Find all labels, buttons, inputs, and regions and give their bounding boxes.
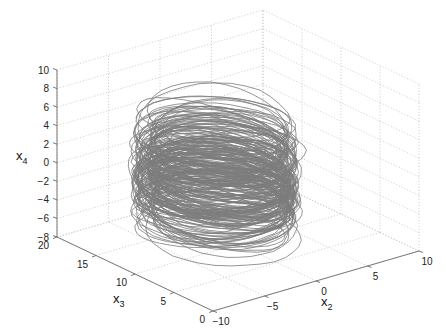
x3-tick: [92, 256, 96, 258]
x4-tick-label: 6: [43, 102, 49, 113]
x4-tick: [53, 106, 57, 108]
x4-tick: [53, 87, 57, 89]
x4-tick-label: −2: [38, 176, 50, 187]
x4-tick-label: 8: [43, 83, 49, 94]
x3-tick-label: 5: [160, 296, 166, 307]
wall-grid-line: [57, 29, 263, 89]
x4-tick-label: 10: [38, 65, 50, 76]
wall-grid-line: [57, 10, 263, 70]
x2-axis-ticks: −10−50510: [213, 251, 433, 327]
x4-tick-label: −6: [38, 213, 50, 224]
x4-tick: [53, 180, 57, 182]
x2-tick-label: 10: [421, 256, 433, 267]
x3-axis-label: x3: [113, 291, 125, 309]
trajectory-curve: [128, 82, 306, 266]
x4-tick: [53, 161, 57, 163]
x3-tick: [131, 274, 135, 276]
x2-tick: [265, 296, 269, 298]
wall-grid-line: [263, 29, 419, 103]
x2-tick: [213, 311, 217, 313]
x4-tick-label: 2: [43, 139, 49, 150]
x3-tick-label: 0: [199, 314, 205, 325]
x3-tick-label: 15: [77, 259, 89, 270]
x3-tick: [53, 237, 57, 239]
x4-axis-ticks: −8−6−4−20246810: [38, 65, 57, 243]
x3-tick-label: 10: [116, 277, 128, 288]
x4-axis-label: x4: [16, 148, 28, 166]
x2-tick: [316, 281, 320, 283]
trajectory-path: [128, 82, 306, 266]
x4-tick: [53, 124, 57, 126]
x2-tick: [419, 251, 423, 253]
x4-tick-label: −4: [38, 194, 50, 205]
x2-tick-label: −10: [213, 316, 230, 327]
3d-line-plot: −8−6−4−20246810 05101520 −10−50510 x4 x3…: [0, 0, 446, 336]
x3-axis-ticks: 05101520: [38, 237, 213, 325]
x3-tick-label: 20: [38, 240, 50, 251]
x2-tick: [368, 266, 372, 268]
x2-tick-label: 5: [373, 271, 379, 282]
x2-tick-label: −5: [267, 301, 279, 312]
x3-tick: [170, 293, 174, 295]
x4-tick-label: 4: [43, 120, 49, 131]
x4-tick-label: 0: [43, 157, 49, 168]
x4-tick: [53, 217, 57, 219]
x4-tick: [53, 198, 57, 200]
x2-axis-label: x2: [321, 294, 333, 312]
x3-tick: [209, 311, 213, 313]
x4-tick: [53, 69, 57, 71]
x4-tick: [53, 143, 57, 145]
